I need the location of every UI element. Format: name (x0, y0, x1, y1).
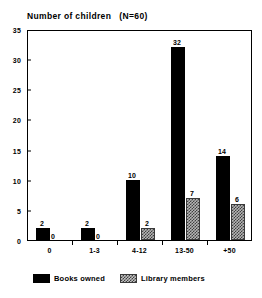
y-axis-tick-mark (27, 120, 31, 121)
y-axis-tick-label: 25 (13, 87, 21, 94)
x-axis-tick-label: +50 (223, 247, 235, 255)
bar-value-label: 2 (145, 220, 149, 227)
x-axis-tick-label: 1-3 (89, 247, 100, 255)
bar-value-label: 10 (128, 172, 136, 179)
bar-value-label: 32 (173, 39, 181, 46)
x-axis-tick-mark (72, 241, 73, 245)
bar-value-label: 2 (40, 220, 44, 227)
y-axis-tick-mark (27, 90, 31, 91)
x-axis-tick-label: 0 (47, 247, 51, 255)
y-axis-tick-label: 35 (13, 27, 21, 34)
x-axis-tick-label: 4-12 (132, 247, 147, 255)
legend-item-library-members: Library members (120, 272, 205, 284)
y-axis-tick-mark (27, 210, 31, 211)
y-axis-tick-mark (27, 180, 31, 181)
y-axis-tick-label: 15 (13, 147, 21, 154)
legend-item-label: Books owned (54, 274, 105, 283)
legend-item-books-owned: Books owned (33, 272, 105, 284)
legend-item-label: Library members (141, 274, 205, 283)
bar-books-owned (81, 228, 95, 240)
bar-value-label: 2 (85, 220, 89, 227)
bar-books-owned (171, 47, 185, 240)
x-axis-tick-mark (207, 241, 208, 245)
bar-library-members (141, 228, 155, 240)
bar-library-members (231, 204, 245, 240)
x-axis-tick-label: 13-50 (175, 247, 194, 255)
chart-legend: Books ownedLibrary members (0, 272, 262, 288)
bar-books-owned (36, 228, 50, 240)
bar-books-owned (216, 156, 230, 240)
bar-value-label: 0 (96, 233, 100, 240)
y-axis-tick-label: 10 (13, 177, 21, 184)
bar-value-label: 6 (235, 196, 239, 203)
solid-black-swatch (33, 274, 50, 283)
x-axis-tick-mark (162, 241, 163, 245)
y-axis-tick-mark (27, 60, 31, 61)
y-axis-tick-label: 20 (13, 117, 21, 124)
chart-title: Number of children (N=60) (27, 11, 148, 21)
bar-value-label: 14 (218, 148, 226, 155)
y-axis-tick-mark (27, 150, 31, 151)
plot-area (27, 30, 252, 241)
bar-books-owned (126, 180, 140, 240)
y-axis: 05101520253035 (0, 30, 27, 241)
bar-library-members (186, 198, 200, 240)
bar-chart-figure: Number of children (N=60) 05101520253035… (0, 0, 262, 298)
bar-value-label: 7 (190, 190, 194, 197)
bar-value-label: 0 (51, 233, 55, 240)
hatched-gray-swatch (120, 274, 137, 283)
x-axis-tick-mark (117, 241, 118, 245)
y-axis-tick-label: 5 (17, 207, 21, 214)
y-axis-tick-label: 30 (13, 57, 21, 64)
y-axis-tick-label: 0 (17, 238, 21, 245)
